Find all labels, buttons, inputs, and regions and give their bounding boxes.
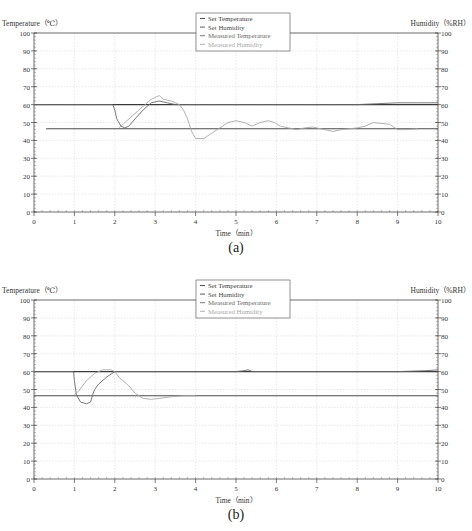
x-tick-label: 0 [32, 485, 36, 493]
series-measured-temperature [34, 370, 438, 404]
y-tick-label-right: 50 [441, 120, 449, 128]
y-tick-label-left: 80 [23, 66, 31, 74]
x-tick-label: 10 [435, 485, 443, 493]
y-tick-label-left: 20 [23, 173, 31, 181]
x-tick-label: 0 [32, 218, 36, 226]
x-tick-label: 3 [153, 218, 157, 226]
y-tick-label-right: 90 [441, 48, 449, 56]
x-tick-label: 8 [355, 485, 359, 493]
y-axis-title-right: Humidity（%RH） [411, 19, 470, 28]
y-tick-label-right: 60 [441, 369, 449, 377]
y-tick-label-right: 60 [441, 102, 449, 110]
y-tick-label-right: 30 [441, 422, 449, 430]
chart-a-caption: (a) [0, 240, 472, 256]
y-tick-label-right: 10 [441, 191, 449, 199]
y-tick-label-left: 20 [23, 440, 31, 448]
y-axis-title-left: Temperature（℃） [2, 19, 62, 28]
y-tick-label-right: 100 [441, 30, 452, 38]
y-tick-label-right: 80 [441, 66, 449, 74]
x-tick-label: 7 [315, 485, 319, 493]
y-tick-label-left: 50 [23, 387, 31, 395]
chart-panel-a: 0102030405060708090100010203040506070809… [0, 0, 472, 265]
y-tick-label-right: 40 [441, 137, 449, 145]
chart-a-plot: 0102030405060708090100010203040506070809… [0, 0, 472, 240]
x-tick-label: 1 [73, 218, 77, 226]
y-tick-label-right: 90 [441, 315, 449, 323]
y-tick-label-left: 100 [20, 297, 31, 305]
legend-label: Set Temperature [208, 15, 253, 22]
y-tick-label-right: 80 [441, 333, 449, 341]
x-tick-label: 7 [315, 218, 319, 226]
legend: Set TemperatureSet HumidityMeasured Temp… [196, 280, 290, 318]
y-tick-label-left: 30 [23, 155, 31, 163]
legend-label: Measured Humidity [208, 41, 263, 48]
y-tick-label-right: 40 [441, 404, 449, 412]
x-tick-label: 1 [73, 485, 77, 493]
chart-b-plot: 0102030405060708090100010203040506070809… [0, 267, 472, 507]
y-tick-label-left: 100 [20, 30, 31, 38]
legend-label: Measured Temperature [208, 299, 271, 306]
y-tick-label-right: 10 [441, 458, 449, 466]
x-tick-label: 2 [113, 218, 117, 226]
y-axis-title-left: Temperature（℃） [2, 286, 62, 295]
y-tick-label-left: 70 [23, 84, 31, 92]
legend-label: Set Temperature [208, 282, 253, 289]
y-tick-label-right: 20 [441, 173, 449, 181]
x-tick-label: 6 [275, 218, 279, 226]
y-axis-title-right: Humidity（%RH） [411, 286, 470, 295]
x-tick-label: 4 [194, 485, 198, 493]
chart-b-caption: (b) [0, 507, 472, 523]
y-tick-label-left: 40 [23, 404, 31, 412]
y-tick-label-left: 50 [23, 120, 31, 128]
x-tick-label: 9 [396, 485, 400, 493]
y-tick-label-left: 80 [23, 333, 31, 341]
legend: Set TemperatureSet HumidityMeasured Temp… [196, 13, 290, 51]
x-axis-title: Time（min） [215, 229, 256, 238]
x-tick-label: 5 [234, 485, 238, 493]
y-tick-label-left: 60 [23, 102, 31, 110]
x-tick-label: 8 [355, 218, 359, 226]
y-tick-label-left: 0 [27, 209, 31, 217]
y-tick-label-left: 10 [23, 458, 31, 466]
y-tick-label-right: 20 [441, 440, 449, 448]
y-tick-label-left: 70 [23, 351, 31, 359]
y-tick-label-right: 70 [441, 84, 449, 92]
x-tick-label: 4 [194, 218, 198, 226]
legend-label: Measured Humidity [208, 308, 263, 315]
y-tick-label-left: 10 [23, 191, 31, 199]
y-tick-label-left: 90 [23, 48, 31, 56]
legend-label: Set Humidity [208, 24, 245, 31]
y-tick-label-right: 100 [441, 297, 452, 305]
x-axis-title: Time（min） [215, 496, 256, 505]
x-tick-label: 6 [275, 485, 279, 493]
x-tick-label: 5 [234, 218, 238, 226]
chart-panel-b: 0102030405060708090100010203040506070809… [0, 267, 472, 531]
x-tick-label: 10 [435, 218, 443, 226]
y-tick-label-right: 0 [441, 476, 445, 484]
y-tick-label-left: 30 [23, 422, 31, 430]
y-tick-label-left: 60 [23, 369, 31, 377]
legend-label: Set Humidity [208, 291, 245, 298]
y-tick-label-right: 50 [441, 387, 449, 395]
x-tick-label: 2 [113, 485, 117, 493]
y-tick-label-left: 90 [23, 315, 31, 323]
x-tick-label: 3 [153, 485, 157, 493]
y-tick-label-right: 70 [441, 351, 449, 359]
y-tick-label-left: 40 [23, 137, 31, 145]
y-tick-label-right: 30 [441, 155, 449, 163]
y-tick-label-left: 0 [27, 476, 31, 484]
y-tick-label-right: 0 [441, 209, 445, 217]
legend-label: Measured Temperature [208, 32, 271, 39]
x-tick-label: 9 [396, 218, 400, 226]
